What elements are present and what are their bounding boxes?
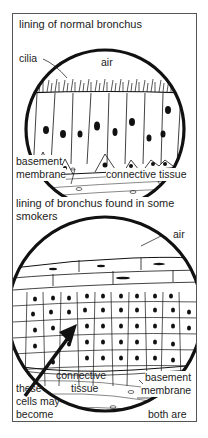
figure-frame: lining of normal bronchus cilia air base… xyxy=(12,13,197,422)
label-cancer-line2: cells may xyxy=(16,395,60,408)
cilia-icon xyxy=(27,79,180,92)
label-cancer-line1: these xyxy=(16,382,42,395)
label-connective-2: connective xyxy=(56,369,106,382)
label-basement-1: basement xyxy=(16,155,62,168)
label-cancer-line3: become xyxy=(16,408,53,421)
panel-2-title-line2: smokers xyxy=(16,210,58,223)
label-membrane-2: membrane xyxy=(141,384,191,397)
label-cancer-line4: cancerous xyxy=(16,421,64,422)
label-tissue-2: tissue xyxy=(71,382,98,395)
label-basement-2: basement xyxy=(145,371,191,384)
label-membrane-1: membrane xyxy=(16,168,66,181)
label-magnified-line1: both are xyxy=(148,408,187,421)
label-air-1: air xyxy=(101,56,113,69)
label-connective-tissue-1: connective tissue xyxy=(106,168,187,181)
panel-1-title: lining of normal bronchus xyxy=(19,18,142,31)
label-air-2: air xyxy=(173,228,185,241)
panel-2-title-line1: lining of bronchus found in some xyxy=(16,197,174,210)
label-magnified-line2: much magnified xyxy=(113,421,187,422)
label-cilia: cilia xyxy=(19,52,37,65)
